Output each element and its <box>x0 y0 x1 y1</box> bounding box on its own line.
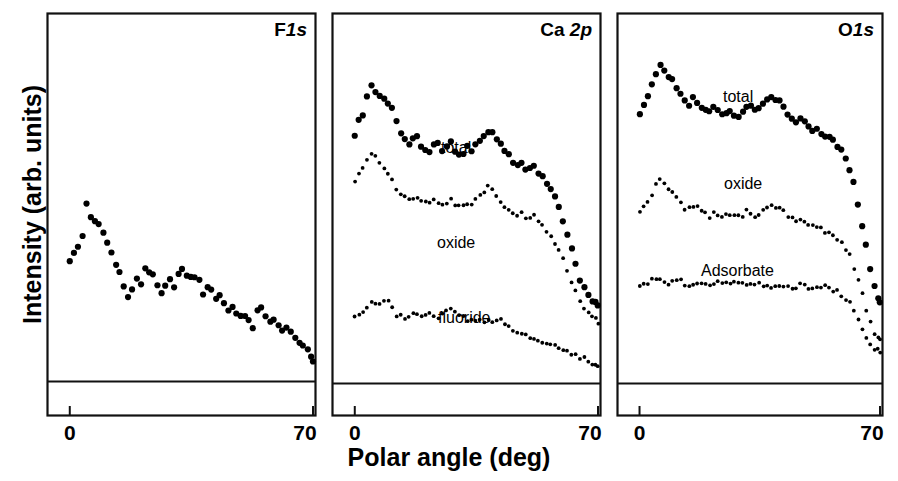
x-tick-label-2-right: 70 <box>852 421 892 445</box>
data-point <box>427 311 431 315</box>
data-point <box>850 179 856 185</box>
x-axis-label: Polar angle (deg) <box>0 443 898 472</box>
data-point <box>545 230 549 234</box>
data-point <box>389 105 395 111</box>
data-point <box>96 221 102 227</box>
data-point <box>773 284 777 288</box>
data-point <box>669 76 675 82</box>
data-point <box>386 172 390 176</box>
panel-title-orbital: 1s <box>286 19 307 40</box>
data-point <box>703 210 707 214</box>
x-tick-label-0-right: 70 <box>285 421 325 445</box>
data-point <box>473 197 477 201</box>
panel-title-element: F <box>274 19 286 40</box>
data-point <box>419 199 423 203</box>
data-point <box>569 353 573 357</box>
data-point <box>695 282 699 286</box>
data-point <box>365 306 369 310</box>
data-point <box>844 298 848 302</box>
data-point <box>217 292 223 298</box>
data-point <box>352 133 358 139</box>
data-point <box>549 234 553 238</box>
data-point <box>357 313 361 317</box>
data-point <box>490 187 494 191</box>
data-point <box>753 283 757 287</box>
panel-title-element: Ca <box>540 19 570 40</box>
data-point <box>638 284 642 288</box>
data-point <box>650 277 654 281</box>
data-point <box>686 103 692 109</box>
data-point <box>646 200 650 204</box>
data-point <box>520 210 524 214</box>
data-point <box>839 294 843 298</box>
data-point <box>655 277 659 281</box>
data-point <box>360 112 366 118</box>
data-point <box>791 216 795 220</box>
series-f1s <box>67 201 316 365</box>
data-point <box>794 286 798 290</box>
data-point <box>365 158 369 162</box>
data-point <box>691 283 695 287</box>
x-tick-label-1-left: 0 <box>335 421 375 445</box>
data-point <box>765 206 769 210</box>
data-point <box>585 292 591 298</box>
data-point <box>515 214 519 218</box>
data-point <box>453 204 457 208</box>
data-point <box>727 108 733 114</box>
x-tick-label-0-left: 0 <box>50 421 90 445</box>
panel-title-element: O <box>838 19 853 40</box>
data-point <box>570 281 574 285</box>
data-point <box>815 285 819 289</box>
data-point <box>540 223 544 227</box>
x-tick-label-2-left: 0 <box>620 421 660 445</box>
data-point <box>540 341 544 345</box>
data-point <box>708 283 712 287</box>
data-point <box>737 281 741 285</box>
data-point <box>528 336 532 340</box>
data-point <box>399 192 403 196</box>
data-point <box>819 286 823 290</box>
data-point <box>424 313 428 317</box>
data-point <box>683 284 687 288</box>
data-point <box>741 215 745 219</box>
data-point <box>864 336 868 340</box>
data-point <box>667 283 671 287</box>
data-point <box>572 261 578 267</box>
data-point <box>649 81 655 87</box>
series-label-o1s-total: total <box>723 88 753 106</box>
data-point <box>229 304 235 310</box>
data-point <box>835 288 839 292</box>
data-point <box>715 107 721 113</box>
data-point <box>305 346 311 352</box>
data-point <box>262 313 268 319</box>
data-point <box>581 284 587 290</box>
data-point <box>769 286 773 290</box>
panel-title-ca2p: Ca 2p <box>540 19 592 41</box>
data-point <box>246 317 252 323</box>
data-point <box>548 186 554 192</box>
data-point <box>494 194 498 198</box>
data-point <box>670 279 674 283</box>
data-point <box>403 194 407 198</box>
data-point <box>420 314 424 318</box>
data-point <box>791 287 795 291</box>
data-point <box>432 314 436 318</box>
data-point <box>843 155 849 161</box>
data-point <box>370 152 374 156</box>
panel-f1s <box>47 14 316 416</box>
data-point <box>578 357 582 361</box>
data-point <box>407 315 411 319</box>
data-point <box>658 277 662 281</box>
data-point <box>176 271 182 277</box>
data-point <box>583 355 587 359</box>
data-point <box>506 151 512 157</box>
data-point <box>716 214 720 218</box>
data-point <box>387 299 391 303</box>
data-point <box>642 204 646 208</box>
data-point <box>478 193 482 197</box>
data-point <box>645 93 651 99</box>
data-point <box>100 230 106 236</box>
data-point <box>445 202 449 206</box>
y-axis-label: Intensity (arb. units) <box>18 55 47 355</box>
data-point <box>437 201 441 205</box>
